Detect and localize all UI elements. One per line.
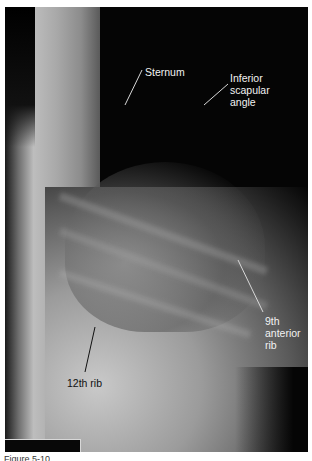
- inferior-scapular-angle-label: Inferior scapular angle: [230, 72, 270, 108]
- ninth-rib-leader: [238, 260, 263, 312]
- ninth-anterior-rib-label: 9th anterior rib: [265, 315, 301, 351]
- sternum-leader: [125, 70, 142, 105]
- label-line: anterior: [265, 327, 301, 339]
- label-line: 9th: [265, 315, 301, 327]
- figure-caption: Figure 5-10: [4, 452, 50, 461]
- twelfth-rib-label: 12th rib: [67, 377, 102, 389]
- sternum-label: Sternum: [145, 66, 185, 78]
- twelfth-rib-leader: [85, 327, 95, 372]
- radiograph: Sternum Inferior scapular angle 9th ante…: [5, 7, 308, 452]
- label-line: Inferior: [230, 72, 270, 84]
- scapular-angle-leader: [204, 84, 228, 105]
- label-line: angle: [230, 96, 270, 108]
- label-line: rib: [265, 339, 301, 351]
- label-line: scapular: [230, 84, 270, 96]
